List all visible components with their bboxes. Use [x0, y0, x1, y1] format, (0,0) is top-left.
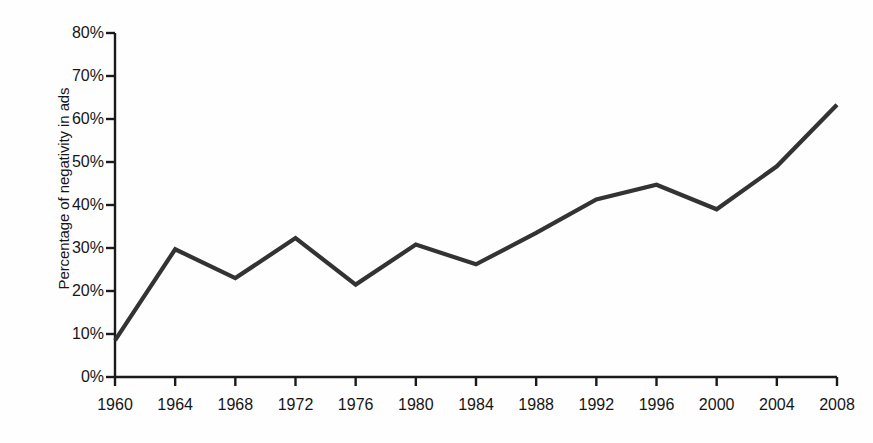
y-axis-ticks	[106, 33, 115, 377]
plot-area	[0, 0, 873, 443]
axes	[115, 33, 837, 377]
line-chart: Percentage of negativity in ads 0%10%20%…	[0, 0, 873, 443]
x-axis-ticks	[115, 377, 837, 386]
data-series-line	[115, 105, 837, 341]
x-axis-tick-label: 2008	[802, 396, 872, 414]
